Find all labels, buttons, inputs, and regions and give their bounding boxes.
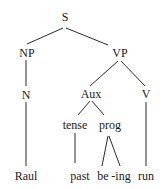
edge-aux-prog bbox=[92, 101, 104, 115]
edge-vp-v bbox=[121, 61, 145, 86]
node-v: V bbox=[142, 87, 151, 101]
edge-prog-be bbox=[102, 136, 108, 166]
leaf-ing: -ing bbox=[111, 169, 130, 183]
edge-vp-aux bbox=[90, 61, 118, 86]
node-vp: VP bbox=[112, 46, 128, 60]
node-prog: prog bbox=[99, 118, 121, 132]
leaf-raul: Raul bbox=[15, 169, 38, 183]
leaf-past: past bbox=[70, 169, 90, 183]
leaf-be: be bbox=[97, 169, 108, 183]
node-n: N bbox=[22, 88, 31, 102]
node-s: S bbox=[62, 10, 69, 24]
edge-aux-tense bbox=[78, 101, 90, 115]
edge-s-np bbox=[27, 28, 63, 44]
edge-s-vp bbox=[66, 28, 108, 45]
edge-prog-ing bbox=[109, 136, 120, 166]
leaf-run: run bbox=[138, 169, 154, 183]
node-aux: Aux bbox=[81, 87, 102, 101]
syntax-tree: S NP VP N Aux V tense prog Raul past be … bbox=[0, 0, 163, 189]
node-np: NP bbox=[19, 46, 35, 60]
node-tense: tense bbox=[63, 118, 88, 132]
